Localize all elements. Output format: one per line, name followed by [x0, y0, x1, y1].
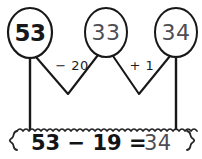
math-jump-strategy-diagram: 53 33 34 − 20 + 1 53 − 19 = 34 — [0, 0, 202, 159]
jump-label-minus-20: − 20 — [55, 58, 89, 73]
node-label-end: 34 — [162, 20, 191, 45]
diagram-canvas: 53 33 34 − 20 + 1 53 − 19 = 34 — [0, 0, 202, 159]
equation-strong-part: 53 − 19 = — [31, 131, 147, 155]
brace-left-curl — [10, 131, 17, 150]
jump-label-plus-1: + 1 — [130, 58, 155, 73]
brace-right-curl — [187, 131, 194, 150]
node-label-middle: 33 — [92, 20, 121, 45]
node-label-start: 53 — [14, 20, 45, 46]
equation-answer: 34 — [144, 131, 172, 155]
